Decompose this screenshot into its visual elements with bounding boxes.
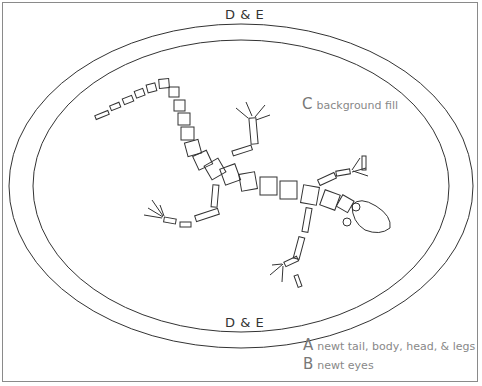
newt-body	[204, 158, 354, 212]
newt-eye-top	[352, 203, 360, 211]
newt-leg-front-right	[318, 156, 368, 186]
legend-b-text: newt eyes	[317, 359, 373, 372]
newt-head	[352, 201, 390, 233]
label-c-letter: C	[302, 95, 312, 113]
label-c-text: background fill	[316, 99, 398, 112]
newt-eye-bottom	[343, 218, 351, 226]
label-de-top: D & E	[225, 7, 264, 22]
legend-a-letter: A	[303, 336, 313, 354]
label-c-background: Cbackground fill	[302, 95, 398, 113]
legend-item-a: Anewt tail, body, head, & legs	[303, 336, 475, 354]
legend-b-letter: B	[303, 355, 313, 373]
newt-diagram: D & E D & E Cbackground fill Anewt tail,…	[0, 0, 482, 386]
label-de-bottom: D & E	[225, 315, 264, 330]
legend-item-b: Bnewt eyes	[303, 355, 374, 373]
newt-leg-rear	[144, 185, 219, 227]
newt-leg-upper-front	[232, 102, 270, 156]
legend-a-text: newt tail, body, head, & legs	[317, 340, 475, 353]
newt-tail	[95, 79, 213, 171]
newt-leg-rear-right	[270, 208, 312, 288]
